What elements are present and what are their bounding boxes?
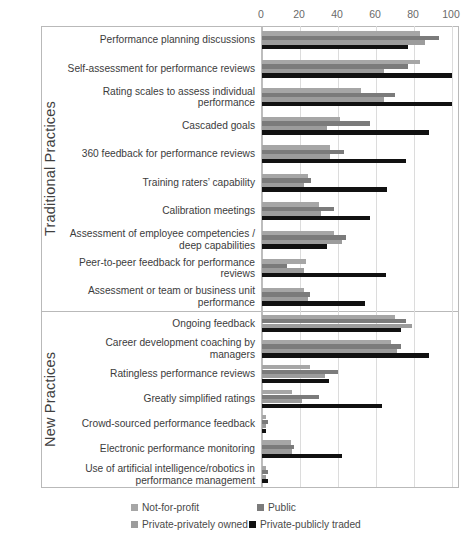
x-tick-label: 60 xyxy=(369,8,381,20)
bar-group xyxy=(262,437,451,462)
bar xyxy=(262,102,452,106)
chart-legend: Not-for-profit Public Private-privately … xyxy=(0,500,461,540)
bar-group xyxy=(262,197,451,226)
category-label: Peer-to-peer feedback for performance re… xyxy=(59,257,255,280)
gridline xyxy=(452,26,453,487)
legend-swatch-icon xyxy=(131,504,138,511)
x-tick-label: 100 xyxy=(442,8,460,20)
bar-set xyxy=(262,140,451,169)
bar-set xyxy=(262,386,451,411)
category-label: Use of artificial intelligence/robotics … xyxy=(59,463,255,486)
category-label: Performance planning discussions xyxy=(59,34,255,46)
bar xyxy=(262,328,401,332)
bar-group xyxy=(262,55,451,84)
legend-label: Not-for-profit xyxy=(142,502,199,513)
category-label: Cascaded goals xyxy=(59,120,255,132)
bar xyxy=(262,130,429,134)
bar-group xyxy=(262,254,451,283)
bar-set xyxy=(262,336,451,361)
category-label: Ratingless performance reviews xyxy=(59,368,255,380)
bar-set xyxy=(262,254,451,283)
category-label: Ongoing feedback xyxy=(59,318,255,330)
category-label: Rating scales to assess individual perfo… xyxy=(59,86,255,109)
legend-item-private-publicly-traded: Private-publicly traded xyxy=(249,519,361,530)
bar-set xyxy=(262,462,451,487)
bar-set xyxy=(262,283,451,312)
bar-set xyxy=(262,169,451,198)
bar xyxy=(262,244,327,248)
bar-set xyxy=(262,112,451,141)
bar-set xyxy=(262,361,451,386)
legend-label: Public xyxy=(268,502,296,513)
bar-group xyxy=(262,311,451,336)
bar-set xyxy=(262,412,451,437)
bar-set xyxy=(262,197,451,226)
bar-set xyxy=(262,55,451,84)
category-label: Greatly simplified ratings xyxy=(59,393,255,405)
category-label: Career development coaching by managers xyxy=(59,337,255,360)
bar-group xyxy=(262,140,451,169)
legend-item-private-privately-owned: Private-privately owned xyxy=(131,519,248,530)
bar xyxy=(262,379,329,383)
x-tick-label: 40 xyxy=(331,8,343,20)
x-tick-label: 80 xyxy=(407,8,419,20)
bar-group xyxy=(262,169,451,198)
legend-swatch-icon xyxy=(131,521,138,528)
bar-group xyxy=(262,412,451,437)
bar-group xyxy=(262,462,451,487)
bar-set xyxy=(262,83,451,112)
category-label: Training raters’ capability xyxy=(59,177,255,189)
bar xyxy=(262,404,382,408)
bar-set xyxy=(262,226,451,255)
category-label: Assessment or team or business unit perf… xyxy=(59,285,255,308)
bar xyxy=(262,301,365,305)
category-label: 360 feedback for performance reviews xyxy=(59,148,255,160)
legend-label: Private-privately owned xyxy=(142,519,248,530)
legend-item-not-for-profit: Not-for-profit xyxy=(131,502,199,513)
bar xyxy=(262,73,452,77)
bar xyxy=(262,454,342,458)
bar-group xyxy=(262,112,451,141)
bar-set xyxy=(262,26,451,55)
legend-swatch-icon xyxy=(249,521,256,528)
bar-group xyxy=(262,226,451,255)
bar xyxy=(262,353,429,357)
x-axis: 020406080100 xyxy=(261,8,451,24)
bar-group xyxy=(262,361,451,386)
bar xyxy=(262,216,370,220)
x-tick-label: 20 xyxy=(293,8,305,20)
bar-set xyxy=(262,437,451,462)
bar-group xyxy=(262,336,451,361)
bar xyxy=(262,273,386,277)
bar-set xyxy=(262,311,451,336)
plot-area xyxy=(261,26,451,487)
category-label: Calibration meetings xyxy=(59,205,255,217)
category-label: Assessment of employee competencies / de… xyxy=(59,228,255,251)
bar-group xyxy=(262,26,451,55)
legend-swatch-icon xyxy=(257,504,264,511)
legend-item-public: Public xyxy=(257,502,296,513)
bar xyxy=(262,45,408,49)
legend-label: Private-publicly traded xyxy=(260,519,361,530)
bar xyxy=(262,159,406,163)
bar-chart: Traditional Practices New Practices 0204… xyxy=(0,0,461,542)
bar-group xyxy=(262,283,451,312)
bar-group xyxy=(262,386,451,411)
x-tick-label: 0 xyxy=(258,8,264,20)
bar xyxy=(262,187,387,191)
bar-group xyxy=(262,83,451,112)
category-label: Electronic performance monitoring xyxy=(59,443,255,455)
category-label: Self-assessment for performance reviews xyxy=(59,63,255,75)
category-label: Crowd-sourced performance feedback xyxy=(59,418,255,430)
bar xyxy=(262,429,266,433)
bar xyxy=(262,479,268,483)
